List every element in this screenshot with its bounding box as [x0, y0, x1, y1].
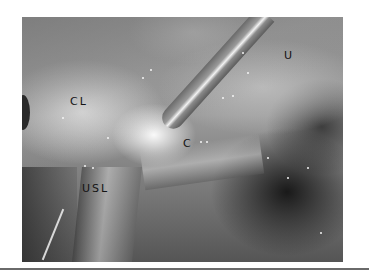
specular-highlight: [150, 69, 152, 71]
specular-highlight: [92, 167, 94, 169]
label-c: C: [183, 137, 193, 150]
left-shadow-region: [22, 167, 77, 262]
specular-highlight: [107, 137, 109, 139]
specular-highlight: [320, 232, 322, 234]
bottom-divider-line: [0, 268, 369, 270]
specular-highlight: [142, 77, 144, 79]
label-usl: USL: [82, 182, 109, 195]
specular-highlight: [62, 117, 64, 119]
specular-highlight: [232, 95, 234, 97]
specular-highlight: [242, 52, 244, 54]
label-u: U: [284, 49, 294, 62]
specular-highlight: [206, 141, 208, 143]
specular-highlight: [267, 157, 269, 159]
specular-highlight: [247, 72, 249, 74]
specular-highlight: [222, 97, 224, 99]
specular-highlight: [307, 167, 309, 169]
specular-highlight: [287, 177, 289, 179]
specular-highlight: [84, 165, 86, 167]
laparoscopic-photo: CL U C USL: [22, 17, 343, 262]
label-cl: CL: [70, 95, 88, 108]
specular-highlight: [200, 141, 202, 143]
